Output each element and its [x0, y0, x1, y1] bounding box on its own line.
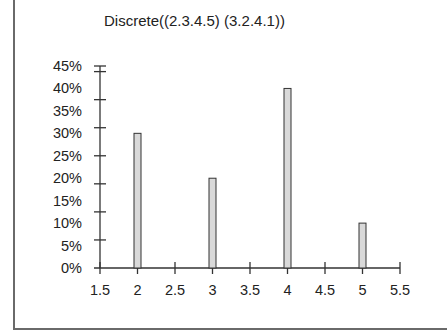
x-tick-label: 4.5: [315, 282, 335, 298]
x-tick-label: 3: [208, 282, 216, 298]
y-tick-label: 15%: [53, 193, 82, 209]
y-tick-label: 0%: [61, 260, 82, 276]
bar-series: [134, 88, 366, 268]
y-tick-label: 5%: [61, 238, 82, 254]
x-tick-label: 1.5: [90, 282, 110, 298]
bar-2: [134, 133, 141, 268]
y-axis: 0%5%10%15%20%25%30%35%40%45%: [53, 58, 106, 276]
bar-5: [359, 223, 366, 268]
y-tick-label: 30%: [53, 125, 82, 141]
y-tick-label: 10%: [53, 215, 82, 231]
bar-4: [284, 88, 291, 268]
bar-3: [209, 178, 216, 268]
y-tick-label: 35%: [53, 103, 82, 119]
x-tick-label: 5.5: [390, 282, 410, 298]
y-tick-label: 45%: [53, 58, 82, 74]
x-tick-label: 2: [133, 282, 141, 298]
x-tick-label: 2.5: [165, 282, 185, 298]
y-tick-label: 25%: [53, 148, 82, 164]
chart-plot: 0%5%10%15%20%25%30%35%40%45% 1.522.533.5…: [0, 0, 447, 331]
y-tick-label: 20%: [53, 170, 82, 186]
y-tick-label: 40%: [53, 80, 82, 96]
x-tick-label: 3.5: [240, 282, 260, 298]
x-tick-label: 5: [358, 282, 366, 298]
x-tick-label: 4: [283, 282, 291, 298]
